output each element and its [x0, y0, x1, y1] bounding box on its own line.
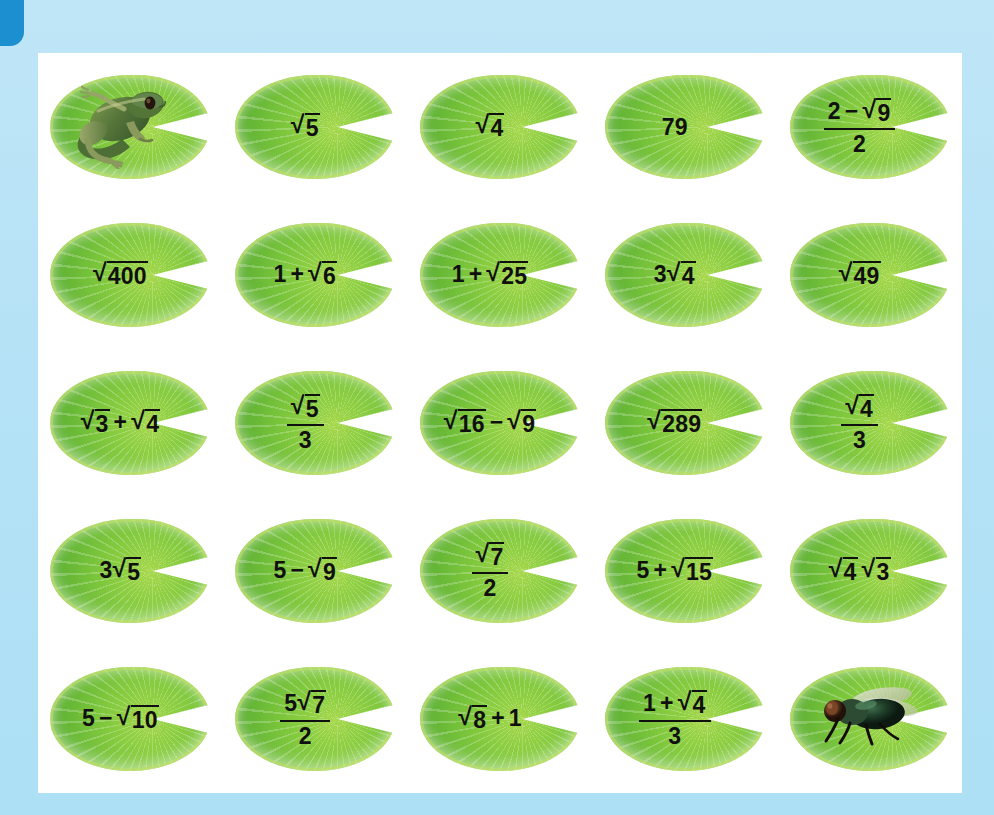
grid-cell: 79 [592, 53, 777, 201]
square-root-icon: √289 [647, 409, 702, 436]
square-root-icon: √9 [507, 409, 536, 436]
expression-r5c1: 5−√10 [82, 705, 159, 732]
radicand: 4 [843, 557, 858, 584]
lily-pad-r1c5[interactable]: 2−√92 [790, 75, 950, 179]
numeral: 3 [853, 427, 866, 453]
lily-pad-r5c2[interactable]: 5√72 [235, 667, 395, 771]
lily-pad-r3c1[interactable]: √3+√4 [50, 371, 210, 475]
radicand: 9 [876, 98, 891, 125]
fraction-denominator: 3 [639, 720, 711, 748]
operator: − [841, 98, 863, 124]
lily-pad-r2c2[interactable]: 1+√6 [235, 223, 395, 327]
grid-cell: √5 [223, 53, 408, 201]
lily-pad-r2c5[interactable]: √49 [790, 223, 950, 327]
numeral: 2 [828, 98, 841, 124]
lily-pad-r5c1[interactable]: 5−√10 [50, 667, 210, 771]
fraction-denominator: 2 [280, 720, 330, 748]
lily-pad-r3c2[interactable]: √53 [235, 371, 395, 475]
radicand: 5 [305, 394, 320, 421]
radical-sign: √ [117, 704, 131, 729]
lily-pad-r5c4[interactable]: 1+√43 [605, 667, 765, 771]
numeral: 5 [82, 705, 95, 731]
radical-sign: √ [829, 556, 843, 581]
radical-sign: √ [507, 408, 521, 433]
operator: − [286, 557, 308, 583]
radical-sign: √ [131, 408, 145, 433]
lily-pad-r1c2[interactable]: √5 [235, 75, 395, 179]
radical-sign: √ [671, 556, 685, 581]
grid-cell: 5+√15 [592, 497, 777, 645]
numeral: 3 [99, 557, 112, 583]
radicand: 3 [95, 409, 110, 436]
grid-cell: √53 [223, 349, 408, 497]
lily-pad-r3c3[interactable]: √16−√9 [420, 371, 580, 475]
expression-r2c1: √400 [93, 261, 148, 288]
lily-pad-r4c3[interactable]: √72 [420, 519, 580, 623]
operator: + [656, 690, 678, 716]
square-root-icon: √6 [308, 261, 337, 288]
operator: + [286, 261, 308, 287]
radicand: 4 [489, 113, 504, 140]
numeral: 2 [853, 131, 866, 157]
radicand: 400 [107, 261, 148, 288]
expression-r1c5: 2−√92 [824, 98, 896, 155]
expression-r4c3: √72 [472, 542, 509, 599]
lily-pad-r4c4[interactable]: 5+√15 [605, 519, 765, 623]
fraction: 1+√43 [639, 690, 711, 747]
square-root-icon: √7 [297, 690, 326, 717]
square-root-icon: √3 [862, 557, 891, 584]
numeral: 5 [273, 557, 286, 583]
square-root-icon: √5 [291, 394, 320, 421]
expression-r1c4: 79 [662, 116, 688, 139]
content-card: √5√4792−√92√4001+√61+√253√4√49√3+√4√53√1… [38, 53, 962, 793]
fraction-denominator: 3 [841, 424, 878, 452]
grid-cell: √4√3 [777, 497, 962, 645]
lily-pad-r2c4[interactable]: 3√4 [605, 223, 765, 327]
lily-pad-r1c1[interactable] [50, 75, 210, 179]
radical-sign: √ [845, 393, 859, 418]
lily-pad-r3c4[interactable]: √289 [605, 371, 765, 475]
square-root-icon: √3 [81, 409, 110, 436]
lily-pad-r1c4[interactable]: 79 [605, 75, 765, 179]
operator: + [650, 557, 672, 583]
lily-pad-r2c1[interactable]: √400 [50, 223, 210, 327]
operator: + [487, 705, 509, 731]
expression-r4c4: 5+√15 [637, 557, 714, 584]
fraction-numerator: √4 [841, 394, 878, 423]
radical-sign: √ [667, 260, 681, 285]
fraction: 2−√92 [824, 98, 896, 155]
expression-r3c3: √16−√9 [444, 409, 536, 436]
lily-pad-r4c1[interactable]: 3√5 [50, 519, 210, 623]
numeral: 5 [637, 557, 650, 583]
fraction: √43 [841, 394, 878, 451]
lily-pad-r5c3[interactable]: √8+1 [420, 667, 580, 771]
lily-pad-r3c5[interactable]: √43 [790, 371, 950, 475]
lily-pad-r1c3[interactable]: √4 [420, 75, 580, 179]
square-root-icon: √4 [667, 261, 696, 288]
square-root-icon: √4 [678, 690, 707, 717]
radicand: 6 [322, 261, 337, 288]
radical-sign: √ [647, 408, 661, 433]
fraction-denominator: 2 [472, 572, 509, 600]
radical-sign: √ [291, 393, 305, 418]
radical-sign: √ [297, 689, 311, 714]
fraction-numerator: 5√7 [280, 690, 330, 719]
radicand: 4 [145, 409, 160, 436]
numeral: 1 [452, 261, 465, 287]
lily-pad-r4c5[interactable]: √4√3 [790, 519, 950, 623]
lily-pad-r5c5[interactable] [790, 667, 950, 771]
radicand: 7 [489, 542, 504, 569]
square-root-icon: √9 [862, 98, 891, 125]
numeral: 5 [284, 690, 297, 716]
square-root-icon: √4 [829, 557, 858, 584]
expression-r5c3: √8+1 [458, 705, 522, 732]
grid-cell [777, 645, 962, 793]
expression-r3c1: √3+√4 [81, 409, 160, 436]
radical-sign: √ [476, 541, 490, 566]
radical-sign: √ [458, 704, 472, 729]
radicand: 10 [131, 705, 159, 732]
lily-pad-r2c3[interactable]: 1+√25 [420, 223, 580, 327]
grid-cell: 5−√9 [223, 497, 408, 645]
lily-pad-r4c2[interactable]: 5−√9 [235, 519, 395, 623]
operator: + [110, 409, 132, 435]
